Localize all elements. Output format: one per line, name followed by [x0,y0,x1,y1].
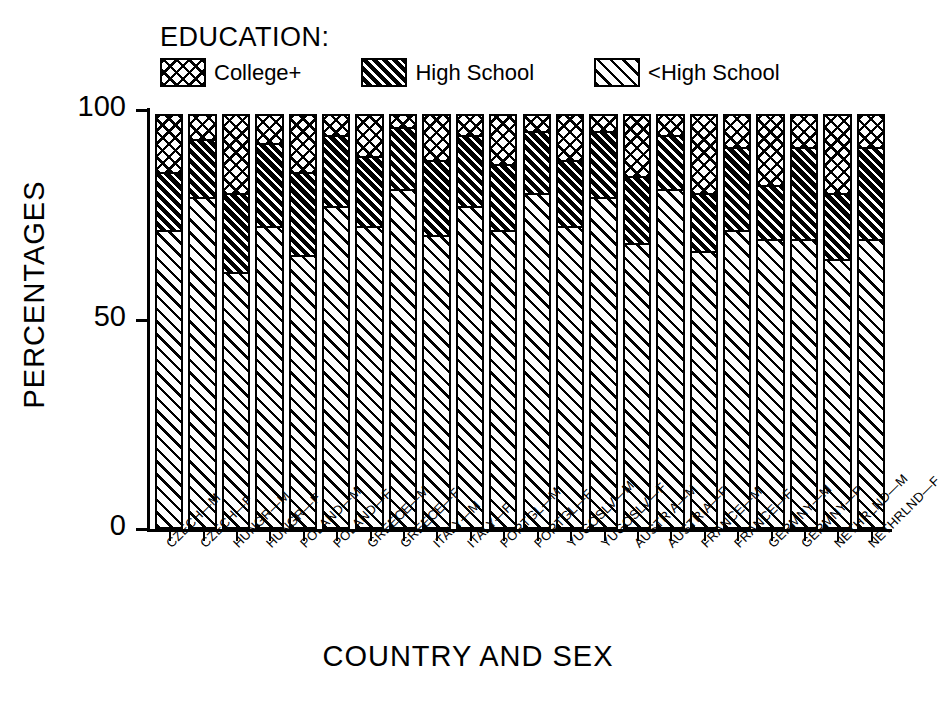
bar-segment-college [257,116,281,145]
bar-segment-college [391,116,415,128]
bar-segment-highschool [859,149,883,240]
y-tick-50 [136,319,148,322]
bar-france-m[interactable] [690,114,718,529]
bar-segment-highschool [525,133,549,195]
bar-segment-college [291,116,315,174]
bar-segment-highschool [491,166,515,232]
bar-portgl-f[interactable] [523,114,551,529]
bar-poland-f[interactable] [322,114,350,529]
bar-austria-f[interactable] [656,114,684,529]
legend-label-highschool: High School [415,60,534,86]
bar-segment-lesshs [558,228,582,527]
bar-segment-highschool [625,178,649,244]
bar-segment-highschool [725,149,749,232]
bar-nethrlnd-f[interactable] [857,114,885,529]
bar-greece-f[interactable] [389,114,417,529]
bar-segment-lesshs [591,199,615,527]
bar-segment-lesshs [424,237,448,527]
bar-germny-m[interactable] [756,114,784,529]
bar-segment-lesshs [190,199,214,527]
legend-entries: College+ High School <High School [160,58,900,87]
bar-segment-lesshs [658,191,682,527]
bar-segment-college [792,116,816,149]
bar-italy-f[interactable] [456,114,484,529]
bar-segment-lesshs [758,241,782,527]
y-tick-label-0: 0 [16,509,126,542]
legend-swatch-lesshs-icon [594,58,640,87]
bar-italy-m[interactable] [422,114,450,529]
bar-segment-lesshs [324,208,348,528]
bar-segment-college [859,116,883,149]
bar-germny-f[interactable] [790,114,818,529]
bar-poland-m[interactable] [289,114,317,529]
bar-segment-college [725,116,749,149]
bar-segment-lesshs [859,241,883,527]
bar-segment-college [658,116,682,137]
bar-segment-college [324,116,348,137]
legend-entry-highschool: High School [361,58,534,87]
bar-portgl-m[interactable] [489,114,517,529]
bar-segment-highschool [357,158,381,229]
bar-segment-highschool [224,195,248,274]
plot-area [155,110,890,529]
bar-segment-lesshs [491,232,515,527]
legend-entry-lesshs: <High School [594,58,779,87]
bar-segment-college [157,116,181,174]
bar-segment-lesshs [357,228,381,527]
legend-swatch-college-icon [160,58,206,87]
bar-segment-highschool [758,187,782,241]
bar-segment-highschool [792,149,816,240]
bar-czech-f[interactable] [188,114,216,529]
bar-segment-college [491,116,515,166]
bar-segment-college [692,116,716,195]
bar-segment-college [424,116,448,162]
bar-segment-highschool [424,162,448,237]
bar-czech-m[interactable] [155,114,183,529]
bar-segment-lesshs [458,208,482,528]
bar-france-f[interactable] [723,114,751,529]
x-axis-title: COUNTRY AND SEX [0,640,936,673]
bar-segment-college [525,116,549,133]
legend-label-college: College+ [214,60,301,86]
y-tick-100 [136,109,148,112]
bar-yugoslv-f[interactable] [589,114,617,529]
bar-segment-highschool [458,137,482,208]
bar-segment-highschool [558,162,582,228]
bar-segment-highschool [257,145,281,228]
bar-yugoslv-m[interactable] [556,114,584,529]
chart-legend: EDUCATION: College+ High School <High Sc… [160,22,900,87]
bar-greece-m[interactable] [355,114,383,529]
bar-segment-college [625,116,649,178]
bar-segment-highschool [391,129,415,191]
bar-segment-college [558,116,582,162]
bar-segment-lesshs [291,257,315,527]
bar-segment-highschool [692,195,716,253]
bar-segment-highschool [190,141,214,199]
legend-label-lesshs: <High School [648,60,779,86]
bar-segment-college [758,116,782,187]
bar-segment-highschool [825,195,849,261]
bar-hungr-f[interactable] [255,114,283,529]
bar-segment-highschool [157,174,181,232]
bar-segment-lesshs [525,195,549,527]
bar-segment-lesshs [792,241,816,527]
bar-segment-college [825,116,849,195]
bar-segment-lesshs [692,253,716,527]
bar-segment-highschool [291,174,315,257]
bar-segment-college [458,116,482,137]
bar-segment-highschool [324,137,348,208]
legend-swatch-highschool-icon [361,58,407,87]
bar-nethrlnd-m[interactable] [823,114,851,529]
bar-austria-m[interactable] [623,114,651,529]
bar-hungr-m[interactable] [222,114,250,529]
bar-segment-lesshs [725,232,749,527]
y-tick-0 [136,528,148,531]
bar-segment-highschool [658,137,682,191]
bar-segment-college [591,116,615,133]
bar-segment-college [190,116,214,141]
bar-segment-lesshs [224,274,248,527]
bar-segment-lesshs [257,228,281,527]
bar-segment-college [224,116,248,195]
bar-segment-highschool [591,133,615,199]
bar-segment-lesshs [157,232,181,527]
